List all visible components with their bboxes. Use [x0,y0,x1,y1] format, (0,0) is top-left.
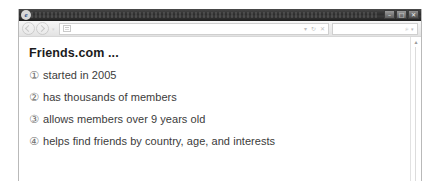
close-button[interactable]: ✕ [408,10,419,19]
recent-pages-chevron-down-icon[interactable]: ▾ [50,26,56,32]
nav-buttons: ▾ [22,22,56,35]
refresh-icon[interactable]: ↻ [311,25,316,33]
browser-window: e – □ ✕ ▾ ▾ ↻ ✕ ⌕ ▾ Friends.com [18,9,422,181]
list-item-text: started in 2005 [43,69,117,81]
list-item-text: helps find friends by country, age, and … [43,135,275,147]
list-item: ① started in 2005 [29,69,421,82]
forward-arrow-icon[interactable] [36,22,49,35]
maximize-button[interactable]: □ [396,10,407,19]
search-box[interactable]: ⌕ ▾ [332,23,418,35]
scroll-up-arrow-icon[interactable]: ▴ [411,37,421,46]
window-controls: – □ ✕ [384,10,419,19]
navigation-toolbar: ▾ ▾ ↻ ✕ ⌕ ▾ [19,21,421,37]
minimize-button[interactable]: – [384,10,395,19]
title-bar[interactable]: e – □ ✕ [19,9,421,21]
stop-icon[interactable]: ✕ [320,25,325,33]
browser-logo-icon: e [21,10,31,20]
page-title: Friends.com ... [29,46,421,60]
vertical-scrollbar[interactable]: ▴ [410,37,421,181]
address-bar-icons: ▾ ↻ ✕ [304,25,328,33]
list-marker-1: ① [29,69,43,82]
compatibility-view-icon[interactable]: ▾ [304,25,307,33]
list-item: ② has thousands of members [29,91,421,104]
list-marker-2: ② [29,91,43,104]
fact-list: ① started in 2005 ② has thousands of mem… [29,69,421,148]
page-body: Friends.com ... ① started in 2005 ② has … [19,37,421,148]
list-item-text: has thousands of members [43,91,177,103]
address-bar[interactable]: ▾ ↻ ✕ [59,23,329,35]
scrollbar-track[interactable] [415,47,416,181]
list-item: ③ allows members over 9 years old [29,113,421,126]
search-provider-chevron-down-icon[interactable]: ▾ [411,26,414,32]
page-content-area: Friends.com ... ① started in 2005 ② has … [19,37,421,181]
back-arrow-icon[interactable] [22,22,35,35]
list-item-text: allows members over 9 years old [43,113,205,125]
page-favicon-icon [63,25,71,32]
list-marker-4: ④ [29,135,43,148]
search-icon: ⌕ [405,25,409,33]
list-marker-3: ③ [29,113,43,126]
list-item: ④ helps find friends by country, age, an… [29,135,421,148]
